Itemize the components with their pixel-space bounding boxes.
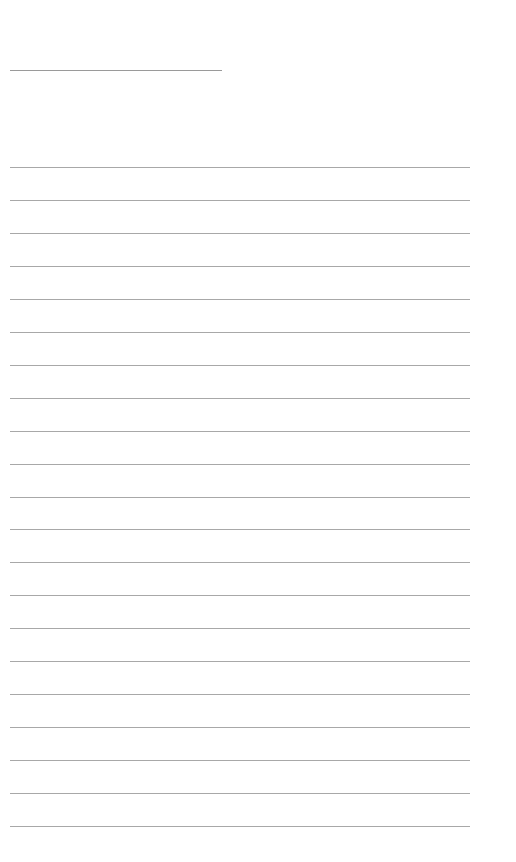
ruled-line (10, 793, 470, 794)
ruled-line (10, 431, 470, 432)
ruled-line (10, 628, 470, 629)
ruled-line (10, 233, 470, 234)
ruled-line (10, 562, 470, 563)
ruled-line (10, 167, 470, 168)
ruled-line (10, 694, 470, 695)
ruled-line (10, 595, 470, 596)
ruled-line (10, 727, 470, 728)
ruled-line (10, 497, 470, 498)
ruled-line (10, 661, 470, 662)
ruled-line (10, 826, 470, 827)
ruled-line (10, 760, 470, 761)
ruled-line (10, 200, 470, 201)
ruled-line (10, 266, 470, 267)
ruled-line (10, 332, 470, 333)
title-line (10, 70, 222, 71)
ruled-line (10, 365, 470, 366)
ruled-line (10, 464, 470, 465)
ruled-line (10, 299, 470, 300)
ruled-line (10, 529, 470, 530)
ruled-line (10, 398, 470, 399)
